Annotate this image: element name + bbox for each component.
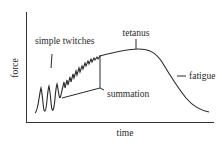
simple-twitches-curve <box>35 84 61 113</box>
tetanus-label: tetanus <box>123 28 150 38</box>
y-axis-label: force <box>10 58 20 78</box>
x-axis-label: time <box>117 128 134 138</box>
fatigue-label: fatigue <box>189 71 215 81</box>
summation-label: summation <box>107 89 149 99</box>
force-time-diagram: force time simple twitches summation tet… <box>0 0 222 144</box>
simple-twitches-label: simple twitches <box>35 36 95 46</box>
simple-twitches-pointer <box>51 54 52 68</box>
summation-bracket <box>62 55 104 98</box>
